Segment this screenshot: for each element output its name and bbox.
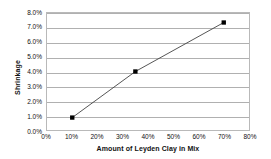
- y-tick-label: 5.0%: [14, 53, 42, 60]
- y-axis-tick-labels: 0.0%1.0%2.0%3.0%4.0%5.0%6.0%7.0%8.0%: [14, 12, 44, 131]
- y-tick-label: 2.0%: [14, 98, 42, 105]
- x-tick-label: 80%: [237, 133, 263, 141]
- plot-area: 10%, 0.85%35%, 4.0%70%, 7.35%: [46, 12, 250, 131]
- x-tick-label: 30%: [110, 133, 136, 141]
- x-tick-label: 10%: [59, 133, 85, 141]
- y-tick-label: 4.0%: [14, 68, 42, 75]
- x-tick-label: 20%: [84, 133, 110, 141]
- shrinkage-line-chart: Shrinkage 0.0%1.0%2.0%3.0%4.0%5.0%6.0%7.…: [0, 0, 271, 159]
- data-point-marker: 10%, 0.85%: [70, 115, 74, 119]
- y-tick-label: 7.0%: [14, 23, 42, 30]
- x-tick-label: 70%: [212, 133, 238, 141]
- x-axis-title: Amount of Leyden Clay in Mix: [46, 144, 250, 153]
- series-line: [72, 23, 224, 118]
- y-tick-label: 1.0%: [14, 113, 42, 120]
- data-point-marker: 35%, 4.0%: [133, 69, 137, 73]
- y-tick-label: 3.0%: [14, 83, 42, 90]
- x-tick-label: 50%: [161, 133, 187, 141]
- x-tick-label: 0%: [33, 133, 59, 141]
- x-tick-label: 60%: [186, 133, 212, 141]
- y-tick-label: 6.0%: [14, 38, 42, 45]
- y-tick-label: 8.0%: [14, 9, 42, 16]
- x-tick-label: 40%: [135, 133, 161, 141]
- x-axis-tick-labels: 0%10%20%30%40%50%60%70%80%: [46, 133, 250, 143]
- data-series-layer: 10%, 0.85%35%, 4.0%70%, 7.35%: [47, 13, 249, 130]
- data-point-marker: 70%, 7.35%: [222, 20, 226, 24]
